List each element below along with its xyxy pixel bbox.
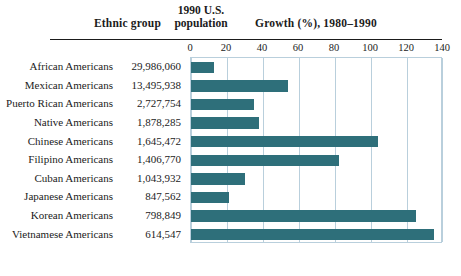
gridline-140 bbox=[442, 58, 443, 242]
row-value-population: 847,562 bbox=[113, 190, 188, 202]
bar-track bbox=[191, 114, 441, 133]
row-label-ethnic-group: Mexican Americans bbox=[0, 79, 113, 91]
row-value-population: 798,849 bbox=[113, 209, 188, 221]
table-row: African Americans29,986,060 bbox=[0, 57, 190, 76]
bar-korean-americans bbox=[191, 210, 416, 222]
bar-track bbox=[191, 151, 441, 170]
bar-track bbox=[191, 95, 441, 114]
chart-title: Growth (%), 1980–1990 bbox=[190, 17, 442, 29]
header-divider bbox=[50, 39, 442, 40]
column-header-ethnic-group: Ethnic group bbox=[58, 17, 161, 29]
bar-cuban-americans bbox=[191, 173, 245, 185]
table-row: Japanese Americans847,562 bbox=[0, 187, 190, 206]
row-label-column: African Americans29,986,060Mexican Ameri… bbox=[0, 57, 190, 243]
x-axis-tick-labels: 020406080100120140 bbox=[0, 42, 461, 56]
row-value-population: 614,547 bbox=[113, 228, 188, 240]
x-tick-label-0: 0 bbox=[187, 42, 192, 53]
table-row: Mexican Americans13,495,938 bbox=[0, 76, 190, 95]
row-label-ethnic-group: Cuban Americans bbox=[0, 172, 113, 184]
row-label-ethnic-group: Chinese Americans bbox=[0, 135, 113, 147]
bar-african-americans bbox=[191, 62, 214, 74]
x-tick-label-20: 20 bbox=[221, 42, 232, 53]
row-value-population: 1,406,770 bbox=[113, 153, 188, 165]
bar-track bbox=[191, 77, 441, 96]
row-label-ethnic-group: Vietnamese Americans bbox=[0, 228, 113, 240]
row-value-population: 2,727,754 bbox=[113, 97, 188, 109]
bar-track bbox=[191, 188, 441, 207]
row-value-population: 1,878,285 bbox=[113, 116, 188, 128]
bar-mexican-americans bbox=[191, 80, 288, 92]
x-tick-label-120: 120 bbox=[398, 42, 414, 53]
row-value-population: 1,645,472 bbox=[113, 135, 188, 147]
bar-track bbox=[191, 225, 441, 244]
x-tick-label-40: 40 bbox=[257, 42, 268, 53]
bar-filipino-americans bbox=[191, 155, 339, 167]
table-row: Cuban Americans1,043,932 bbox=[0, 169, 190, 188]
column-header-population-line1: 1990 U.S. bbox=[178, 4, 224, 16]
bar-vietnamese-americans bbox=[191, 229, 434, 241]
row-value-population: 1,043,932 bbox=[113, 172, 188, 184]
bar-japanese-americans bbox=[191, 192, 229, 204]
bar-track bbox=[191, 170, 441, 189]
x-tick-label-60: 60 bbox=[293, 42, 304, 53]
table-row: Vietnamese Americans614,547 bbox=[0, 224, 190, 243]
table-row: Chinese Americans1,645,472 bbox=[0, 131, 190, 150]
bar-native-americans bbox=[191, 117, 259, 129]
chart-header: Ethnic group 1990 U.S. population Growth… bbox=[0, 0, 461, 44]
bar-chinese-americans bbox=[191, 136, 378, 148]
x-tick-label-100: 100 bbox=[362, 42, 378, 53]
bar-track bbox=[191, 207, 441, 226]
x-tick-label-80: 80 bbox=[329, 42, 340, 53]
bar-puerto-rican-americans bbox=[191, 99, 254, 111]
table-row: Korean Americans798,849 bbox=[0, 206, 190, 225]
table-row: Filipino Americans1,406,770 bbox=[0, 150, 190, 169]
x-tick-label-140: 140 bbox=[434, 42, 450, 53]
row-label-ethnic-group: Filipino Americans bbox=[0, 153, 113, 165]
row-label-ethnic-group: Korean Americans bbox=[0, 209, 113, 221]
row-value-population: 13,495,938 bbox=[113, 79, 188, 91]
row-label-ethnic-group: African Americans bbox=[0, 60, 113, 72]
table-row: Native Americans1,878,285 bbox=[0, 113, 190, 132]
row-label-ethnic-group: Puerto Rican Americans bbox=[0, 97, 113, 109]
row-label-ethnic-group: Native Americans bbox=[0, 116, 113, 128]
growth-by-ethnic-group-chart: Ethnic group 1990 U.S. population Growth… bbox=[0, 0, 461, 276]
bar-track bbox=[191, 58, 441, 77]
row-label-ethnic-group: Japanese Americans bbox=[0, 190, 113, 202]
row-value-population: 29,986,060 bbox=[113, 60, 188, 72]
plot-area bbox=[190, 57, 442, 243]
bar-track bbox=[191, 132, 441, 151]
table-row: Puerto Rican Americans2,727,754 bbox=[0, 94, 190, 113]
